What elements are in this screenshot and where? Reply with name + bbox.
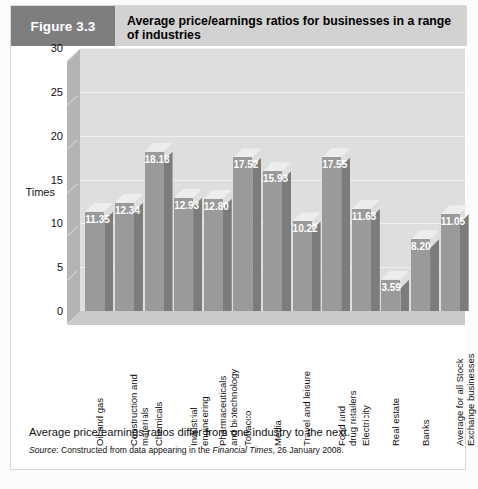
footer-divider bbox=[21, 418, 457, 419]
bar-1[interactable]: 12.34 bbox=[115, 194, 143, 311]
bar-9[interactable]: 11.63 bbox=[352, 200, 380, 311]
bar-front-face bbox=[115, 203, 134, 311]
bar-top-face bbox=[174, 189, 202, 198]
bar-side-face bbox=[430, 239, 439, 311]
bar-front-face bbox=[174, 198, 193, 311]
figure-header: Figure 3.3 Average price/earnings ratios… bbox=[11, 6, 467, 46]
bar-12[interactable]: 11.05 bbox=[441, 205, 469, 311]
y-axis-tick-5: 5 bbox=[17, 261, 63, 273]
bar-7[interactable]: 10.22 bbox=[293, 212, 321, 311]
bar-front-face bbox=[263, 171, 282, 311]
source-suffix: , 26 January 2008. bbox=[273, 445, 344, 455]
bar-front-face bbox=[145, 152, 164, 311]
bar-front-face bbox=[204, 199, 223, 311]
bar-top-face bbox=[322, 148, 350, 157]
bar-10[interactable]: 3.59 bbox=[381, 271, 409, 311]
bar-top-face bbox=[145, 143, 173, 152]
bar-value-label: 11.35 bbox=[85, 214, 104, 225]
bar-front-face bbox=[352, 209, 371, 311]
bar-value-label: 11.63 bbox=[352, 211, 371, 222]
bar-top-face bbox=[85, 203, 113, 212]
bar-0[interactable]: 11.35 bbox=[85, 203, 113, 312]
bar-value-label: 12.34 bbox=[115, 205, 134, 216]
source-text: : Constructed from data appearing in the bbox=[56, 445, 212, 455]
y-axis-tick-0: 0 bbox=[17, 305, 63, 317]
bar-front-face bbox=[233, 157, 252, 311]
bar-top-face bbox=[263, 162, 291, 171]
bar-front-face bbox=[441, 214, 460, 311]
bar-side-face bbox=[460, 214, 469, 311]
bar-2[interactable]: 18.18 bbox=[145, 143, 173, 311]
bar-side-face bbox=[193, 198, 202, 311]
bar-value-label: 12.80 bbox=[204, 201, 223, 212]
bar-top-face bbox=[352, 200, 380, 209]
bar-value-label: 17.52 bbox=[233, 159, 252, 170]
bar-8[interactable]: 17.55 bbox=[322, 148, 350, 311]
figure-panel: Figure 3.3 Average price/earnings ratios… bbox=[10, 5, 466, 470]
bar-side-face bbox=[104, 212, 113, 312]
bar-front-face bbox=[322, 157, 341, 311]
y-axis-tick-20: 20 bbox=[17, 130, 63, 142]
bar-side-face bbox=[223, 199, 232, 311]
bar-value-label: 12.93 bbox=[174, 200, 193, 211]
bar-11[interactable]: 8.20 bbox=[411, 230, 439, 311]
plot-area: 11.3512.3418.1812.9312.8017.5215.9310.22… bbox=[67, 48, 465, 324]
bar-value-label: 17.55 bbox=[322, 159, 341, 170]
bar-side-face bbox=[371, 209, 380, 311]
figure-number-label: Figure 3.3 bbox=[31, 19, 96, 34]
bar-value-label: 8.20 bbox=[411, 241, 430, 252]
bar-6[interactable]: 15.93 bbox=[263, 162, 291, 311]
bar-value-label: 10.22 bbox=[293, 223, 312, 234]
chart-canvas: Times 051015202530 11.3512.3418.1812.931… bbox=[11, 46, 467, 421]
bar-value-label: 3.59 bbox=[381, 282, 400, 293]
bar-value-label: 15.93 bbox=[263, 173, 282, 184]
figure-title: Average price/earnings ratios for busine… bbox=[115, 6, 467, 46]
bar-top-face bbox=[204, 190, 232, 199]
bar-side-face bbox=[341, 157, 350, 311]
bar-top-face bbox=[115, 194, 143, 203]
bar-side-face bbox=[312, 221, 321, 311]
y-axis-tick-10: 10 bbox=[17, 217, 63, 229]
bar-series: 11.3512.3418.1812.9312.8017.5215.9310.22… bbox=[80, 48, 465, 311]
y-axis-tick-labels: 051015202530 bbox=[11, 46, 63, 421]
figure-number-box: Figure 3.3 bbox=[11, 6, 115, 46]
bar-top-face bbox=[441, 205, 469, 214]
bar-side-face bbox=[252, 157, 261, 311]
y-axis-tick-30: 30 bbox=[17, 42, 63, 54]
figure-caption: Average price/earnings ratios differ fro… bbox=[29, 426, 449, 438]
source-prefix: Source bbox=[29, 445, 56, 455]
plot-floor bbox=[67, 311, 465, 325]
bar-top-face bbox=[411, 230, 439, 239]
bar-front-face bbox=[85, 212, 104, 312]
bar-4[interactable]: 12.80 bbox=[204, 190, 232, 311]
bar-side-face bbox=[134, 203, 143, 311]
bar-top-face bbox=[381, 271, 409, 280]
bar-top-face bbox=[293, 212, 321, 221]
bar-side-face bbox=[282, 171, 291, 311]
y-axis-tick-15: 15 bbox=[17, 174, 63, 186]
figure-footer: Average price/earnings ratios differ fro… bbox=[11, 424, 467, 469]
bar-side-face bbox=[164, 152, 173, 311]
bar-5[interactable]: 17.52 bbox=[233, 148, 261, 311]
bar-3[interactable]: 12.93 bbox=[174, 189, 202, 311]
bar-value-label: 11.05 bbox=[441, 216, 460, 227]
y-axis-tick-25: 25 bbox=[17, 86, 63, 98]
bar-side-face bbox=[400, 280, 409, 311]
bar-value-label: 18.18 bbox=[145, 154, 164, 165]
source-publication: Financial Times bbox=[212, 445, 272, 455]
bar-front-face bbox=[293, 221, 312, 311]
figure-source: Source: Constructed from data appearing … bbox=[29, 445, 449, 455]
bar-top-face bbox=[233, 148, 261, 157]
